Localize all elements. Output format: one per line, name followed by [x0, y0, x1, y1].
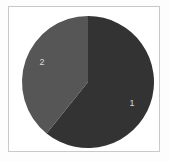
figure-canvas: 1 2	[0, 0, 169, 162]
pie-slice-label-1: 1	[129, 98, 134, 108]
pie-slice-label-2: 2	[39, 57, 44, 67]
pie-slices	[22, 16, 154, 148]
pie-chart: 1 2	[0, 0, 169, 162]
